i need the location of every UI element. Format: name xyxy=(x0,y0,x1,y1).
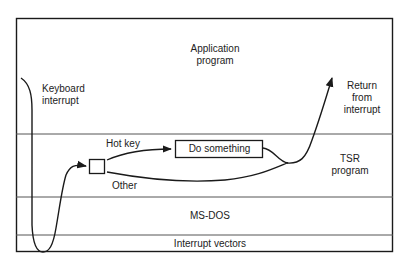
other-path xyxy=(107,163,287,181)
tsr-flow-diagram xyxy=(0,0,405,265)
do-something-label: Do something xyxy=(176,143,263,155)
keyboard-label-line2: interrupt xyxy=(42,95,85,107)
hot-key-arrow xyxy=(107,149,171,160)
tsr-label-line1: TSR xyxy=(325,153,375,165)
return-from-interrupt-label: Return from interrupt xyxy=(337,80,387,116)
return-path xyxy=(287,78,332,163)
hot-key-label: Hot key xyxy=(106,138,140,150)
tsr-program-label: TSR program xyxy=(325,153,375,177)
do-something-exit-path xyxy=(263,148,288,163)
interrupt-vectors-label: Interrupt vectors xyxy=(160,238,260,250)
other-label: Other xyxy=(112,180,137,192)
msdos-label: MS-DOS xyxy=(170,210,250,222)
return-label-line2: from xyxy=(337,92,387,104)
return-label-line3: interrupt xyxy=(337,104,387,116)
decision-box xyxy=(90,160,105,174)
application-program-label: Application program xyxy=(170,43,260,67)
return-label-line1: Return xyxy=(337,80,387,92)
keyboard-interrupt-label: Keyboard interrupt xyxy=(42,83,85,107)
application-label-line1: Application xyxy=(170,43,260,55)
application-label-line2: program xyxy=(170,55,260,67)
tsr-label-line2: program xyxy=(325,165,375,177)
keyboard-label-line1: Keyboard xyxy=(42,83,85,95)
